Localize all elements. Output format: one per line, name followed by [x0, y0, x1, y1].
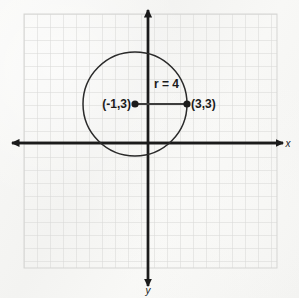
center-point-marker	[131, 100, 138, 107]
center-point-label: (-1,3)	[102, 97, 131, 111]
radius-label: r = 4	[154, 77, 179, 91]
y-axis-label: y	[145, 285, 152, 296]
grid-lines	[24, 14, 277, 268]
x-axis-label: x	[285, 138, 292, 149]
edge-point-marker	[183, 100, 190, 107]
edge-point-label: (3,3)	[191, 97, 216, 111]
coordinate-plane-figure: (-1,3) (3,3) r = 4 x y	[0, 0, 299, 298]
graph-canvas: (-1,3) (3,3) r = 4 x y	[0, 0, 299, 298]
